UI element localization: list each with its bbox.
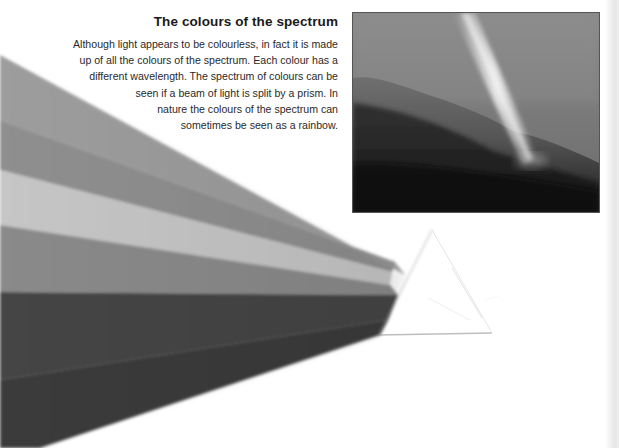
page-gutter [605, 0, 619, 448]
body-line: sometimes be seen as a rainbow. [38, 117, 338, 133]
body-line: Although light appears to be colourless,… [38, 36, 338, 52]
body-line: nature the colours of the spectrum can [38, 101, 338, 117]
photo-scene [353, 13, 599, 212]
body-line: seen if a beam of light is split by a pr… [38, 85, 338, 101]
body-line: up of all the colours of the spectrum. E… [38, 52, 338, 68]
rainbow-photo [352, 12, 600, 213]
page: The colours of the spectrum Although lig… [0, 0, 619, 448]
body-line: different wavelength. The spectrum of co… [38, 68, 338, 84]
article-title: The colours of the spectrum [60, 14, 338, 29]
article-body: Although light appears to be colourless,… [38, 36, 338, 133]
